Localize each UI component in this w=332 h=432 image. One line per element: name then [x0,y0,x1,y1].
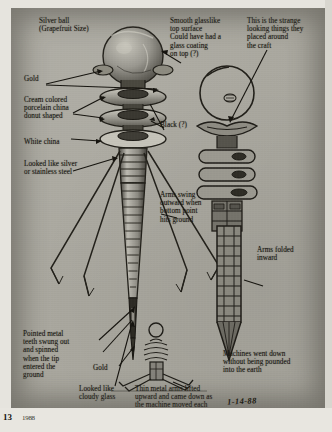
label-pointed-teeth: Pointed metal teeth swung out and spinne… [23,330,69,379]
label-silver-ball: Silver ball (Grapefruit Size) [39,17,89,33]
label-smooth-glasslike: Smooth glasslike top surface Could have … [170,17,221,58]
page-footer-note: 1988 [22,415,35,422]
label-cloudy-glass: Looked like cloudy glass [79,385,115,401]
label-arms-swing: Arms swing outward when bottom point hit… [160,191,202,224]
artist-signature: 1-14-88 © Betty Ann Luca [227,390,286,408]
page-margin-right [325,0,332,432]
label-white-china: White china [24,138,59,146]
page-margin-top [0,0,332,8]
label-arms-folded: Arms folded inward [257,246,294,262]
label-stainless-steel: Looked like silver or stainless steel [24,160,77,176]
signature-date: 1-14-88 [227,395,257,407]
signature-credit: © Betty Ann Luca [226,407,286,408]
label-cream-china: Cream colored porcelain china donut shap… [24,96,69,121]
illustration-plate: Silver ball (Grapefruit Size) Gold Cream… [11,8,325,408]
figure-center-strange-device [197,66,257,231]
page-number: 13 [3,412,12,422]
label-gold-top: Gold [24,75,39,83]
label-machines-went-down: Machines went down without being pounded… [223,350,290,375]
label-gold-bottom: Gold [93,364,108,372]
label-thin-metal-arms: Thin metal arms lifted upward and came d… [135,385,212,408]
page-margin-left [0,0,11,432]
figure-right-arms-folded [217,226,241,360]
label-strange-things: This is the strange looking things they … [247,17,303,50]
label-black-question: Black (?) [160,121,187,129]
page-margin-bottom [0,408,332,432]
scanned-page: Silver ball (Grapefruit Size) Gold Cream… [0,0,332,432]
